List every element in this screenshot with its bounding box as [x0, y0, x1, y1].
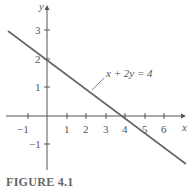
x-axis-arrow-icon [181, 114, 186, 119]
y-tick-label: −1 [29, 138, 41, 150]
x-tick-label: 3 [103, 123, 109, 135]
y-tick-label: 1 [35, 81, 41, 93]
x-tick-label: 1 [64, 123, 70, 135]
annotation-leader [92, 78, 104, 90]
x-tick-label: 6 [161, 123, 167, 135]
y-tick-label: 3 [35, 24, 41, 36]
x-axis-label: x [181, 121, 187, 133]
y-axis-arrow-icon [45, 5, 50, 10]
plot: −1 1 2 3 4 5 6 3 2 1 −1 y x x + 2y = 4 [0, 0, 195, 193]
x-tick-label: 4 [122, 123, 128, 135]
equation-label: x + 2y = 4 [105, 67, 153, 79]
figure-caption: FIGURE 4.1 [6, 175, 74, 190]
x-tick-label: −1 [17, 123, 29, 135]
x-tick-label: 2 [83, 123, 89, 135]
y-axis-label: y [38, 0, 44, 12]
